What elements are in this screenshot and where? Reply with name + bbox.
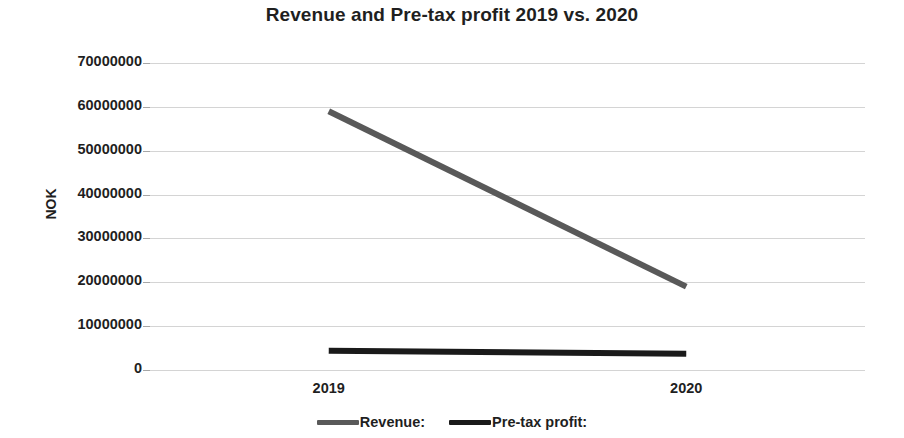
y-axis-tick: [143, 238, 150, 239]
y-axis-tick-label: 40000000: [20, 185, 142, 201]
gridline: [150, 238, 865, 239]
gridline: [150, 282, 865, 283]
y-axis-tick-label: 30000000: [20, 228, 142, 244]
chart-legend: Revenue:Pre-tax profit:: [0, 414, 904, 430]
y-axis-tick: [143, 63, 150, 64]
y-axis-tick-label: 10000000: [20, 316, 142, 332]
gridline: [150, 195, 865, 196]
y-axis-tick: [143, 282, 150, 283]
y-axis-tick: [143, 326, 150, 327]
gridline: [150, 151, 865, 152]
legend-item[interactable]: Pre-tax profit:: [449, 414, 587, 430]
gridline: [150, 63, 865, 64]
y-axis-tick: [143, 151, 150, 152]
legend-swatch-revenue: [317, 420, 359, 425]
y-axis-tick: [143, 107, 150, 108]
legend-swatch-pretax-profit: [449, 420, 491, 425]
y-axis-tick-label: 20000000: [20, 272, 142, 288]
chart-title: Revenue and Pre-tax profit 2019 vs. 2020: [0, 4, 904, 26]
gridline: [150, 370, 865, 371]
legend-item[interactable]: Revenue:: [317, 414, 425, 430]
gridline: [150, 107, 865, 108]
chart-container: Revenue and Pre-tax profit 2019 vs. 2020…: [0, 0, 904, 438]
y-axis-tick: [143, 195, 150, 196]
gridline: [150, 326, 865, 327]
legend-item-label: Revenue:: [360, 414, 425, 430]
legend-item-label: Pre-tax profit:: [492, 414, 587, 430]
y-axis-tick-label: 60000000: [20, 97, 142, 113]
plot-area: [150, 63, 865, 370]
y-axis-tick: [143, 370, 150, 371]
y-axis-tick-label: 50000000: [20, 141, 142, 157]
x-axis-tick-label: 2019: [269, 380, 389, 396]
x-axis-tick-label: 2020: [626, 380, 746, 396]
y-axis-tick-label: 70000000: [20, 53, 142, 69]
y-axis-tick-label: 0: [20, 360, 142, 376]
